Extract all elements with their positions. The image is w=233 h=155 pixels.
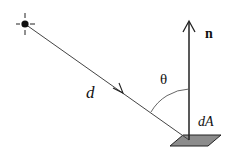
- area-label: dA: [198, 115, 214, 129]
- irradiance-diagram: d θ n dA: [0, 0, 233, 155]
- angle-label: θ: [160, 72, 167, 87]
- light-source-icon: [16, 13, 35, 35]
- normal-label: n: [205, 27, 213, 41]
- ray-arrowhead-icon: [113, 83, 123, 93]
- diagram-canvas: [0, 0, 233, 155]
- surface-patch: [170, 135, 221, 146]
- distance-label: d: [86, 84, 95, 101]
- angle-arc: [151, 89, 189, 112]
